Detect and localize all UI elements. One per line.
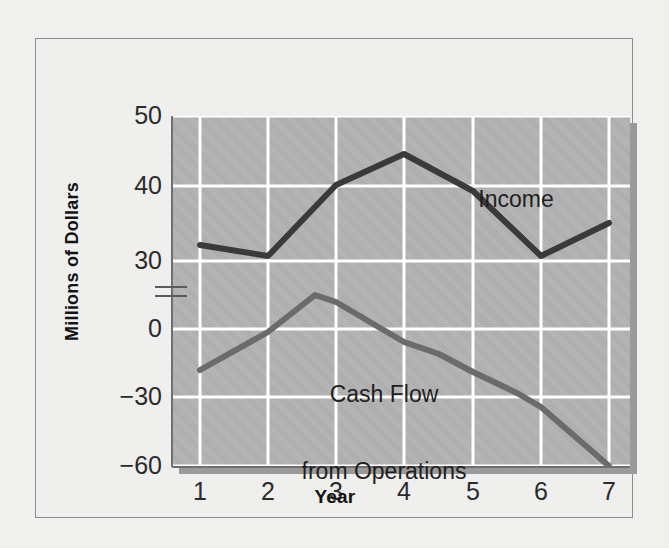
- series-annotation-income: Income: [436, 187, 596, 213]
- series-annotation-cash-flow: Cash Flow from Operations: [274, 330, 494, 536]
- y-axis-title: Millions of Dollars: [62, 162, 83, 362]
- figure-frame: 50 40 30 0 −30 −60 1 2 3 4 5 6 7 Million…: [35, 38, 633, 518]
- series-annotation-cash-flow-line1: Cash Flow: [274, 382, 494, 408]
- series-annotation-cash-flow-line2: from Operations: [274, 459, 494, 485]
